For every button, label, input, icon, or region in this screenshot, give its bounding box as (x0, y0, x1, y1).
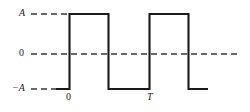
y-axis-label-amplitude-positive: A (19, 8, 25, 18)
y-axis-label-zero: 0 (19, 48, 24, 58)
square-wave-trace (56, 14, 208, 89)
waveform-plot (0, 0, 250, 112)
x-axis-label-period: T (147, 92, 153, 102)
x-axis-label-time-origin: 0 (66, 92, 71, 102)
y-axis-label-amplitude-negative: −A (12, 83, 25, 93)
square-wave-figure: A 0 −A 0 T (0, 0, 250, 112)
